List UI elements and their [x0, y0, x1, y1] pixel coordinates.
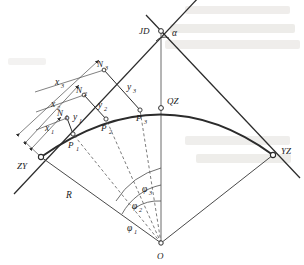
svg-text:P: P — [100, 123, 107, 133]
svg-text:2: 2 — [109, 128, 112, 135]
svg-text:1: 1 — [134, 228, 137, 235]
curve-diagram-figure: JD α ZY YZ QZ O R P 1 P 2 P 3 N 1 N 2 N … — [0, 0, 304, 265]
point-marker-o — [159, 241, 163, 245]
ext-line-zy — [24, 141, 41, 157]
dimension-x3 — [20, 60, 99, 133]
point-marker-p1 — [71, 132, 75, 136]
svg-text:2: 2 — [84, 90, 87, 97]
label-y3: y 3 — [126, 82, 136, 94]
ext-line-n3 — [35, 70, 104, 92]
label-radius: R — [65, 190, 72, 200]
svg-text:1: 1 — [79, 117, 82, 124]
svg-text:y: y — [126, 82, 132, 92]
svg-text:1: 1 — [65, 113, 68, 120]
svg-text:N: N — [75, 85, 83, 95]
svg-text:3: 3 — [60, 82, 64, 89]
svg-text:y: y — [72, 112, 78, 122]
label-x2: x 2 — [50, 99, 60, 111]
label-n2: N 2 — [75, 85, 87, 97]
point-marker-yz — [270, 152, 275, 157]
svg-text:P: P — [135, 113, 142, 123]
label-phi2: φ 2 — [132, 201, 142, 213]
svg-text:2: 2 — [57, 104, 60, 111]
svg-text:2: 2 — [104, 105, 107, 112]
svg-text:P: P — [67, 140, 74, 150]
radius-dashed-p3 — [140, 110, 161, 243]
svg-text:3: 3 — [104, 64, 108, 71]
label-yz: YZ — [281, 146, 292, 156]
label-qz: QZ — [167, 96, 179, 106]
label-p1: P 1 — [67, 140, 79, 152]
point-marker-p3 — [138, 108, 142, 112]
point-marker-qz — [159, 106, 164, 111]
svg-text:x: x — [44, 123, 50, 133]
point-marker-zy — [38, 154, 43, 159]
label-y1: y 1 — [72, 112, 82, 124]
radius-dashed-p1 — [73, 134, 161, 243]
svg-text:x: x — [54, 77, 60, 87]
svg-text:N: N — [96, 59, 104, 69]
svg-text:1: 1 — [51, 128, 54, 135]
label-zy: ZY — [17, 161, 28, 171]
label-o: O — [157, 251, 164, 261]
diagram-svg: JD α ZY YZ QZ O R P 1 P 2 P 3 N 1 N 2 N … — [0, 0, 304, 265]
label-jd: JD — [139, 26, 150, 36]
radius-line-yz — [161, 155, 273, 243]
svg-text:φ: φ — [127, 223, 132, 233]
point-marker-jd — [159, 29, 164, 34]
label-phi3: φ 3 — [142, 184, 152, 196]
svg-text:2: 2 — [139, 206, 142, 213]
svg-text:3: 3 — [148, 189, 152, 196]
svg-text:φ: φ — [142, 184, 147, 194]
label-p2: P 2 — [100, 123, 112, 135]
bleed-through-text — [8, 6, 300, 163]
radius-line-zy — [41, 157, 161, 243]
svg-text:3: 3 — [143, 118, 147, 125]
svg-text:3: 3 — [132, 87, 136, 94]
point-marker-p2 — [104, 117, 108, 121]
svg-text:x: x — [50, 99, 56, 109]
svg-text:y: y — [97, 100, 103, 110]
label-x3: x 3 — [54, 77, 64, 89]
svg-text:φ: φ — [132, 201, 137, 211]
svg-text:1: 1 — [76, 145, 79, 152]
